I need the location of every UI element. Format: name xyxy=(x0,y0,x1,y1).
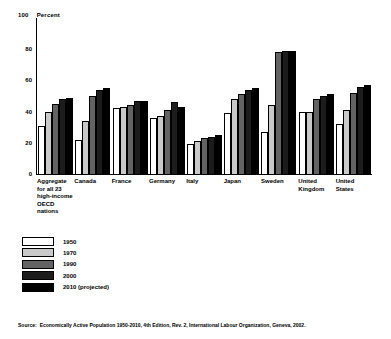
bar xyxy=(224,113,231,174)
bar xyxy=(327,94,334,174)
legend-item: 1970 xyxy=(22,248,109,257)
bar xyxy=(45,112,52,174)
bar-group xyxy=(113,18,148,174)
bar xyxy=(96,90,103,174)
x-axis-category-label: Aggregate for all 23 high-income OECD na… xyxy=(37,178,74,216)
legend-item: 1990 xyxy=(22,260,109,269)
x-axis-category-label: Japan xyxy=(224,178,261,186)
bar xyxy=(299,112,306,174)
x-axis-category-label: France xyxy=(112,178,149,186)
bar xyxy=(38,126,45,174)
bar xyxy=(194,141,201,174)
bar xyxy=(157,116,164,174)
bar xyxy=(66,98,73,174)
legend-swatch xyxy=(22,283,54,292)
bar xyxy=(59,99,66,174)
bar xyxy=(336,124,343,174)
bar xyxy=(127,105,134,174)
bar xyxy=(238,94,245,174)
legend-label: 2010 (projected) xyxy=(63,284,109,290)
bar xyxy=(282,51,289,174)
bar xyxy=(350,93,357,174)
bar xyxy=(261,132,268,174)
bar-group xyxy=(299,18,334,174)
bar-group xyxy=(187,18,222,174)
bar xyxy=(89,96,96,174)
bar xyxy=(178,107,185,174)
legend-swatch xyxy=(22,271,54,280)
bar xyxy=(52,104,59,174)
x-axis-category-labels: Aggregate for all 23 high-income OECD na… xyxy=(37,178,373,230)
bar-group xyxy=(336,18,371,174)
bar xyxy=(231,99,238,174)
bar xyxy=(171,102,178,174)
y-axis-tick-label: 80 xyxy=(25,46,32,52)
bar xyxy=(289,51,296,174)
bar xyxy=(208,137,215,174)
bar-group xyxy=(75,18,110,174)
chart-figure: 100 Percent 020406080 Aggregate for all … xyxy=(0,0,391,339)
x-axis-category-label: United Kingdom xyxy=(298,178,335,193)
legend-item: 2000 xyxy=(22,271,109,280)
legend-item: 1950 xyxy=(22,237,109,246)
bar xyxy=(134,101,141,174)
x-axis-category-label: Sweden xyxy=(261,178,298,186)
bar xyxy=(320,96,327,174)
x-axis-category-label: United States xyxy=(336,178,373,193)
legend-label: 2000 xyxy=(63,273,76,279)
plot-area: 020406080 xyxy=(36,18,372,175)
x-axis-category-label: Italy xyxy=(186,178,223,186)
bar xyxy=(252,88,259,174)
bar xyxy=(82,121,89,174)
source-note: Source:Economically Active Population 19… xyxy=(18,322,383,329)
y-axis-tick-label: 20 xyxy=(25,140,32,146)
chart-legend: 19501970199020002010 (projected) xyxy=(22,237,109,292)
legend-label: 1950 xyxy=(63,239,76,245)
bar-group xyxy=(261,18,296,174)
bar xyxy=(187,144,194,174)
legend-swatch xyxy=(22,260,54,269)
legend-item: 2010 (projected) xyxy=(22,283,109,292)
bar xyxy=(268,105,275,174)
legend-swatch xyxy=(22,248,54,257)
x-axis-line xyxy=(36,174,372,175)
bar xyxy=(245,90,252,174)
x-axis-category-label: Canada xyxy=(74,178,111,186)
bar xyxy=(343,110,350,174)
bar-group xyxy=(38,18,73,174)
bar xyxy=(357,87,364,174)
legend-label: 1970 xyxy=(63,250,76,256)
bar xyxy=(201,138,208,174)
bar xyxy=(275,52,282,174)
bar xyxy=(141,101,148,174)
bar xyxy=(164,110,171,174)
bar xyxy=(113,108,120,174)
bar xyxy=(120,107,127,174)
y-axis-tick-label: 0 xyxy=(29,171,32,177)
bar-group xyxy=(224,18,259,174)
bar xyxy=(215,135,222,174)
bar xyxy=(150,118,157,174)
bar xyxy=(103,88,110,174)
legend-label: 1990 xyxy=(63,261,76,267)
bar-group xyxy=(150,18,185,174)
y-axis-tick-label: 60 xyxy=(25,77,32,83)
bar xyxy=(306,112,313,174)
bar xyxy=(364,85,371,174)
source-prefix: Source: xyxy=(18,322,37,328)
x-axis-category-label: Germany xyxy=(149,178,186,186)
source-text: Economically Active Population 1950-2010… xyxy=(40,322,306,328)
legend-swatch xyxy=(22,237,54,246)
bar xyxy=(75,140,82,174)
y-axis-max-label: 100 xyxy=(18,12,29,18)
bar-groups xyxy=(37,18,372,174)
y-axis-tick-label: 40 xyxy=(25,109,32,115)
bar xyxy=(313,99,320,174)
